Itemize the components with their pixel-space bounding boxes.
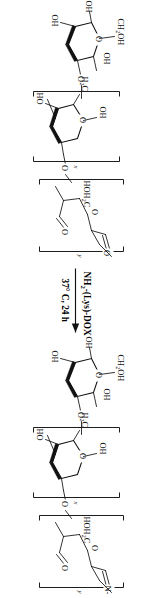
reactant-oh-ring-label: OH [101,52,110,64]
product-glycosidic-oxygen-label-2: O [60,501,69,507]
reactant-y-ring-oxygen-label: O [90,209,99,215]
product-x-ring-oxygen-label: O [78,453,87,459]
reactant-x-ring-oxygen-label: O [78,117,87,123]
reaction-conditions-label: 37° C, 24 h [59,278,69,322]
product-oh-terminal-label: OH [83,336,92,348]
product-oh-terminal-label-2: OH [49,350,58,362]
reactant-hoh2c-label: HOH2C [80,180,90,207]
reactant-x-oh-label: OH [97,106,106,118]
product-y-ring-oxygen-label: O [90,545,99,551]
product-x-oh-label: OH [97,442,106,454]
product-hoh2c-label: HOH2C [80,516,90,543]
reaction-reagent-label: NH2-(Lys)-DOX [80,271,91,336]
product-block-x-subscript: x [72,500,79,504]
product-imine-nitrogen-label: N- [103,585,112,594]
rotated-scheme-canvas: O CH2OH OH OH OH [0,0,151,598]
reactant-oh-terminal-label: OH [83,0,92,12]
reactant-glycosidic-oxygen-label-2: O [60,165,69,171]
product-oh-ring-label: OH [101,388,110,400]
product-aldehyde-oxygen: O [60,565,69,571]
product-block-y-subscript: y [76,589,83,593]
scheme-svg: O CH2OH OH OH OH [0,0,151,598]
reactant-aldehyde-oxygen-1: O [60,229,69,235]
reactant-block-y-subscript: y [76,253,83,257]
reactant-oh-terminal-label-2: OH [49,14,58,26]
reaction-scheme-figure: O CH2OH OH OH OH [0,0,151,598]
product-ho-label: HO [34,428,43,440]
reactant-ho-label: HO [34,92,43,104]
reactant-block-x-subscript: x [72,164,79,168]
